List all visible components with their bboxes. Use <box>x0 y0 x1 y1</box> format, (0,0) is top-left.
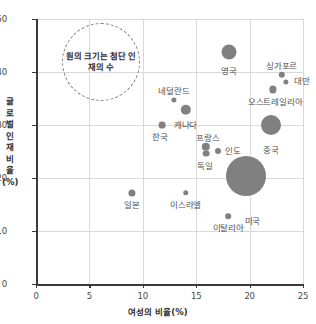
tick-label-y: 40 <box>0 67 7 77</box>
bubble-label-2: 대만 <box>294 74 310 86</box>
bubble-8[interactable] <box>215 148 221 154</box>
bubble-9[interactable] <box>202 150 209 157</box>
bubble-label-0: 영국 <box>221 64 237 76</box>
bubble-label-8: 인도 <box>225 144 241 156</box>
tick-label-x: 25 <box>288 291 316 301</box>
gridline-vertical <box>143 19 144 284</box>
bubble-label-12: 일본 <box>124 198 140 210</box>
tick-label-y: 30 <box>0 120 7 130</box>
bubble-label-1: 싱가포르 <box>266 59 297 71</box>
bubble-11[interactable] <box>226 156 266 196</box>
tick-label-x: 5 <box>74 291 104 301</box>
bubble-chart: 글로벌 인재 비율(%) 영국싱가포르대만오스트레일리아네덜란드캐나다한국프랑스… <box>0 0 316 324</box>
bubble-12[interactable] <box>129 189 136 196</box>
gridline-vertical <box>303 19 304 284</box>
bubble-label-9: 독일 <box>197 159 213 171</box>
bubble-0[interactable] <box>222 44 237 59</box>
gridline-vertical <box>250 19 251 284</box>
tick-label-x: 20 <box>235 291 265 301</box>
tick-label-y: 0 <box>0 279 7 289</box>
tick-label-x: 0 <box>21 291 51 301</box>
bubble-14[interactable] <box>225 213 231 219</box>
tick-mark-x <box>303 284 304 288</box>
bubble-label-13: 이스라엘 <box>170 198 201 210</box>
bubble-6[interactable] <box>159 122 166 129</box>
gridline-horizontal <box>36 19 303 20</box>
tick-label-y: 10 <box>0 226 7 236</box>
bubble-label-7: 프랑스 <box>196 131 219 143</box>
bubble-1[interactable] <box>278 71 284 77</box>
bubble-label-14: 이탈리아 <box>213 221 244 233</box>
x-axis-title: 여성의 비율(%) <box>0 305 316 317</box>
bubble-label-3: 오스트레일리아 <box>248 95 303 107</box>
gridline-horizontal <box>36 231 303 232</box>
y-axis-line <box>36 19 38 284</box>
tick-label-x: 10 <box>128 291 158 301</box>
tick-label-y: 20 <box>0 173 7 183</box>
bubble-13[interactable] <box>183 190 189 196</box>
bubble-5[interactable] <box>180 104 190 114</box>
bubble-4[interactable] <box>171 97 176 102</box>
bubble-size-annotation-text: 원의 크기는 첨단 인재의 수 <box>63 51 139 74</box>
bubble-label-5: 캐나다 <box>174 118 197 130</box>
bubble-label-11: 미국 <box>245 214 261 226</box>
bubble-10[interactable] <box>261 115 281 135</box>
gridline-vertical <box>196 19 197 284</box>
bubble-3[interactable] <box>270 86 277 93</box>
bubble-size-annotation: 원의 크기는 첨단 인재의 수 <box>62 23 140 101</box>
bubble-2[interactable] <box>283 79 288 84</box>
tick-label-y: 50 <box>0 14 7 24</box>
bubble-label-6: 한국 <box>152 130 168 142</box>
bubble-label-4: 네덜란드 <box>158 84 189 96</box>
x-axis-line <box>36 284 303 286</box>
tick-label-x: 15 <box>181 291 211 301</box>
bubble-label-10: 중국 <box>263 143 279 155</box>
